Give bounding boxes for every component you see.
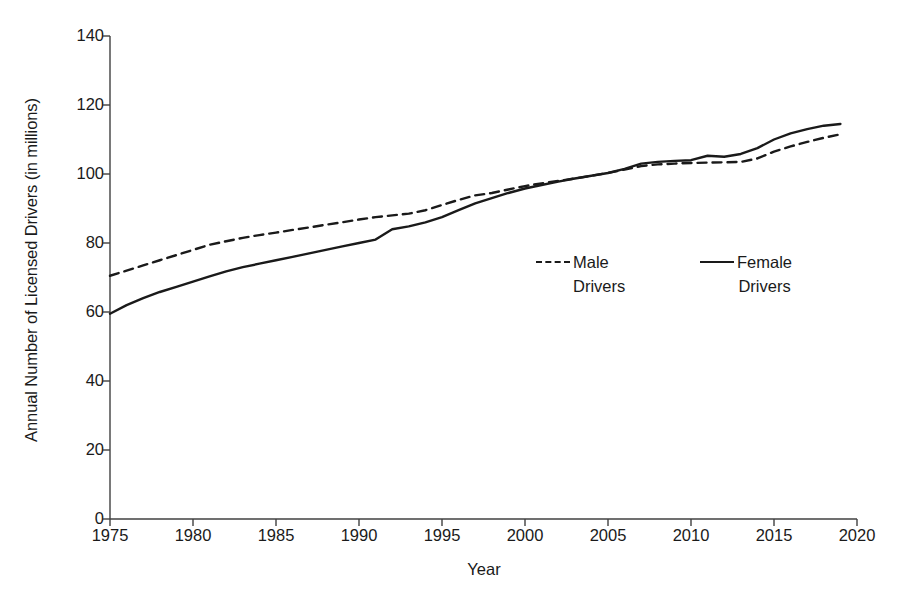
legend-male-label-line2: Drivers (536, 274, 625, 298)
legend-female-label-line2: Drivers (700, 274, 792, 298)
dashed-line-icon (536, 261, 570, 263)
solid-line-icon (700, 261, 734, 263)
legend-item-male-drivers: Male Drivers (536, 250, 625, 298)
legend-item-female-drivers: Female Drivers (700, 250, 792, 298)
plot-area (0, 0, 907, 613)
line-chart: Annual Number of Licensed Drivers (in mi… (0, 0, 907, 613)
legend-female-label-line1: Female (737, 250, 792, 274)
x-axis-title: Year (110, 560, 858, 579)
legend-male-label-line1: Male (573, 250, 609, 274)
